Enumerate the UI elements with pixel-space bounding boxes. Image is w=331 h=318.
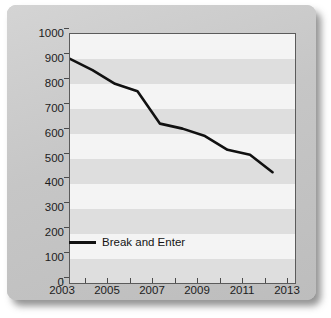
y-tick-100 xyxy=(64,252,69,253)
y-axis-labels: 01002003004005006007008009001000 xyxy=(17,5,64,318)
x-tick-2012 xyxy=(265,278,266,283)
y-tick-label-500: 500 xyxy=(45,152,64,164)
y-tick-500 xyxy=(64,153,69,154)
y-tick-300 xyxy=(64,202,69,203)
y-tick-label-700: 700 xyxy=(45,102,64,114)
x-tick-label-2005: 2005 xyxy=(94,284,120,296)
y-tick-0 xyxy=(64,277,69,278)
x-tick-label-2003: 2003 xyxy=(49,284,75,296)
x-tick-2013 xyxy=(287,278,288,283)
x-tick-2009 xyxy=(197,278,198,283)
series-line-break-and-enter xyxy=(70,59,273,172)
y-tick-label-100: 100 xyxy=(45,251,64,263)
y-tick-label-1000: 1000 xyxy=(38,27,64,39)
y-tick-label-900: 900 xyxy=(45,52,64,64)
x-tick-label-2013: 2013 xyxy=(274,284,300,296)
x-tick-label-2007: 2007 xyxy=(139,284,165,296)
x-tick-2010 xyxy=(220,278,221,283)
legend-label: Break and Enter xyxy=(102,236,185,248)
y-tick-label-800: 800 xyxy=(45,77,64,89)
y-tick-label-400: 400 xyxy=(45,176,64,188)
legend-line-swatch xyxy=(69,241,96,244)
x-tick-2011 xyxy=(242,278,243,283)
x-tick-2006 xyxy=(130,278,131,283)
x-tick-2008 xyxy=(175,278,176,283)
chart-card: 01002003004005006007008009001000 Break a… xyxy=(7,5,316,300)
y-tick-200 xyxy=(64,227,69,228)
y-tick-label-300: 300 xyxy=(45,201,64,213)
legend: Break and Enter xyxy=(69,236,185,248)
x-tick-2004 xyxy=(85,278,86,283)
y-tick-label-200: 200 xyxy=(45,226,64,238)
y-tick-900 xyxy=(64,53,69,54)
y-tick-800 xyxy=(64,78,69,79)
y-tick-1000 xyxy=(64,28,69,29)
x-tick-label-2011: 2011 xyxy=(230,284,255,296)
x-tick-2005 xyxy=(107,278,108,283)
y-tick-400 xyxy=(64,177,69,178)
x-tick-2003 xyxy=(62,278,63,283)
y-tick-600 xyxy=(64,128,69,129)
y-tick-label-600: 600 xyxy=(45,127,64,139)
x-tick-label-2009: 2009 xyxy=(184,284,210,296)
x-tick-2007 xyxy=(152,278,153,283)
y-tick-700 xyxy=(64,103,69,104)
